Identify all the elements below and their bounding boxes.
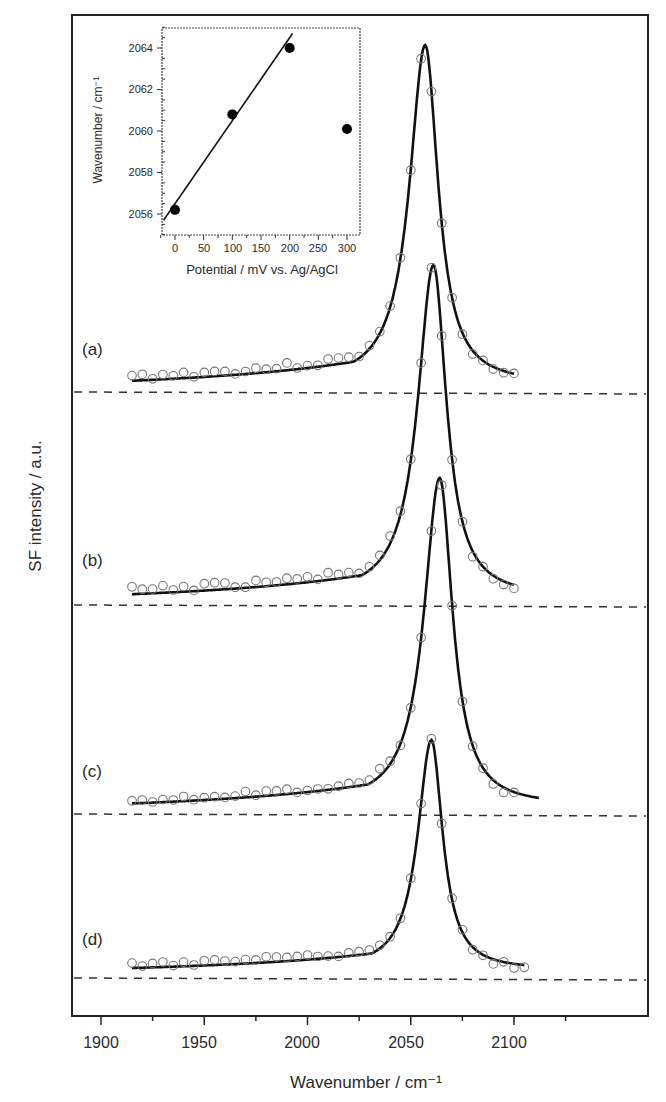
inset-x-tick-50: 50 [198,242,210,254]
inset-y-tick-2058: 2058 [129,166,153,178]
inset-frame [162,28,360,235]
inset-y-tick-2062: 2062 [129,83,153,95]
x-tick-2050: 2050 [388,1034,424,1052]
inset-y-tick-2064: 2064 [129,42,153,54]
inset-y-tick-2060: 2060 [129,125,153,137]
inset-plot [157,27,360,240]
inset-x-tick-250: 250 [309,242,327,254]
inset-x-axis-label: Potential / mV vs. Ag/AgCl [186,262,338,277]
trace-label-a: (a) [82,340,103,360]
fit-curve-d [132,740,524,968]
x-axis-ticks [101,1016,566,1025]
trace-label-d: (d) [82,930,103,950]
x-tick-1950: 1950 [181,1034,217,1052]
x-tick-2000: 2000 [284,1034,320,1052]
inset-x-tick-300: 300 [338,242,356,254]
inset-y-axis-label: Wavenumber / cm⁻¹ [91,77,105,184]
inset-data-point [227,109,237,119]
y-axis-label: SF intensity / a.u. [26,440,46,571]
x-axis-label: Wavenumber / cm⁻¹ [290,1072,442,1093]
inset-x-tick-150: 150 [252,242,270,254]
x-tick-1900: 1900 [83,1034,119,1052]
inset-x-tick-200: 200 [281,242,299,254]
trace-label-c: (c) [82,762,102,782]
inset-data-point [342,124,352,134]
trace-label-b: (b) [82,551,103,571]
inset-y-tick-2056: 2056 [129,208,153,220]
inset-data-point [170,205,180,215]
fit-curve-c [132,478,539,804]
inset-data-point [285,43,295,53]
inset-x-tick-100: 100 [224,242,242,254]
inset-x-tick-0: 0 [172,242,178,254]
zero-baselines [74,392,646,980]
x-tick-2100: 2100 [491,1034,527,1052]
